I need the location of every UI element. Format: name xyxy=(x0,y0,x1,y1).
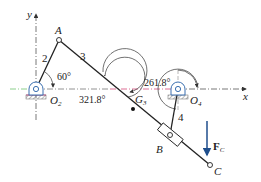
angle-arc-theta3 xyxy=(104,57,145,97)
link-4-label: 4 xyxy=(178,111,184,123)
y-axis: y xyxy=(26,8,36,120)
link-3-label: 3 xyxy=(80,50,86,62)
x-axis-label: x xyxy=(242,90,248,102)
point-c-label: C xyxy=(214,165,222,177)
angle-theta4-label: 261.8° xyxy=(144,77,171,88)
point-o4-label: O4 xyxy=(190,94,202,108)
point-g3-label: G3 xyxy=(135,93,147,107)
angle-arc-theta2 xyxy=(45,72,53,87)
joint-a xyxy=(57,38,62,43)
angle-theta2-label: 60° xyxy=(57,71,71,82)
center-of-mass-g3 xyxy=(131,107,135,111)
point-o2-label: O2 xyxy=(50,94,62,108)
ground-pivot-o2 xyxy=(26,82,46,99)
link-2 xyxy=(36,40,59,89)
force-fc-label: FC xyxy=(213,140,225,154)
point-b-label: B xyxy=(156,143,163,155)
angle-theta3-label: 321.8° xyxy=(79,94,106,105)
point-a-label: A xyxy=(54,24,62,36)
ground-pivot-o4 xyxy=(168,82,188,99)
joint-c xyxy=(208,163,213,168)
link-2-label: 2 xyxy=(42,52,48,64)
linkage-diagram: y x 2 3 4 B A C G3 O2 O xyxy=(0,0,261,182)
y-axis-label: y xyxy=(26,8,32,20)
joint-b xyxy=(168,133,173,138)
